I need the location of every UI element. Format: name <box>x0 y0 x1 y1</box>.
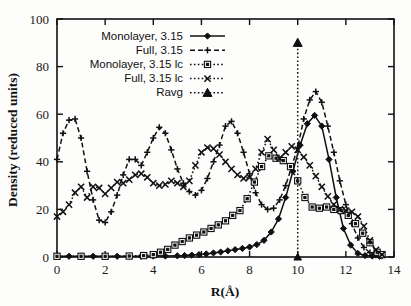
x-axis-title: R(Å) <box>211 284 240 299</box>
data-marker-core <box>56 255 58 257</box>
x-tick-label: 14 <box>388 262 402 277</box>
data-marker <box>246 244 252 250</box>
x-tick-label: 8 <box>246 262 253 277</box>
x-tick-label: 6 <box>198 262 205 277</box>
data-marker <box>232 247 238 253</box>
data-marker-core <box>203 231 205 233</box>
data-marker <box>254 242 260 248</box>
data-marker-core <box>311 206 313 208</box>
series-group <box>54 38 385 260</box>
legend-label-1: Full, 3.15 <box>136 44 183 56</box>
data-marker <box>204 33 210 39</box>
data-marker-core <box>159 251 161 253</box>
data-marker-core <box>333 208 335 210</box>
x-tick-label: 0 <box>54 262 61 277</box>
data-marker-core <box>206 63 208 65</box>
legend-label-2: Monolayer, 3.15 lc <box>90 58 184 70</box>
x-tick-label: 4 <box>150 262 157 277</box>
y-tick-label: 80 <box>36 59 49 74</box>
data-marker-core <box>80 255 82 257</box>
data-marker-core <box>224 220 226 222</box>
data-marker <box>218 249 224 255</box>
data-marker-core <box>354 223 356 225</box>
data-marker-core <box>275 157 277 159</box>
data-marker-core <box>152 254 154 256</box>
data-marker <box>340 225 346 231</box>
data-marker-core <box>210 227 212 229</box>
y-tick-label: 100 <box>30 12 50 27</box>
data-marker-core <box>239 209 241 211</box>
legend-label-0: Monolayer, 3.15 <box>101 30 183 42</box>
data-marker-core <box>196 234 198 236</box>
x-tick-label: 2 <box>102 262 109 277</box>
chart-canvas: 02468101214020406080100 Monolayer, 3.15F… <box>0 0 411 306</box>
series-1 <box>54 88 385 259</box>
legend: Monolayer, 3.15Full, 3.15Monolayer, 3.15… <box>90 30 225 99</box>
density-vs-r-chart: 02468101214020406080100 Monolayer, 3.15F… <box>0 0 411 306</box>
legend-label-4: Ravg <box>156 86 183 98</box>
data-marker <box>114 253 120 259</box>
data-marker-core <box>188 237 190 239</box>
y-tick-label: 60 <box>36 107 49 122</box>
data-marker <box>293 38 302 46</box>
data-marker-core <box>128 255 130 257</box>
series-line <box>57 92 382 256</box>
legend-label-3: Full, 3.15 lc <box>124 72 183 84</box>
series-0 <box>54 112 383 259</box>
x-tick-label: 10 <box>291 262 304 277</box>
data-marker-core <box>289 165 291 167</box>
data-marker-core <box>304 196 306 198</box>
data-marker-core <box>232 214 234 216</box>
data-marker-core <box>362 232 364 234</box>
y-tick-label: 40 <box>36 154 49 169</box>
data-marker-core <box>181 240 183 242</box>
data-marker-core <box>217 224 219 226</box>
data-marker <box>239 245 245 251</box>
y-axis-title: Density (reduced units) <box>5 73 20 207</box>
data-marker-core <box>143 254 145 256</box>
y-tick-label: 0 <box>43 250 50 265</box>
data-marker-core <box>167 248 169 250</box>
data-marker <box>326 156 332 162</box>
data-marker <box>333 194 339 200</box>
data-marker <box>174 253 180 259</box>
data-marker <box>283 194 289 200</box>
series-line <box>57 115 380 256</box>
x-tick-label: 12 <box>339 262 352 277</box>
data-marker-core <box>104 255 106 257</box>
data-marker-core <box>261 165 263 167</box>
data-marker-core <box>246 198 248 200</box>
data-marker-core <box>318 207 320 209</box>
data-marker-core <box>326 206 328 208</box>
data-marker-core <box>253 181 255 183</box>
data-marker <box>275 216 281 222</box>
tick-label-group: 02468101214020406080100 <box>30 12 402 278</box>
data-marker-core <box>174 244 176 246</box>
data-marker <box>203 251 209 257</box>
data-marker <box>210 250 216 256</box>
data-marker-core <box>268 155 270 157</box>
y-tick-label: 20 <box>36 202 49 217</box>
data-marker <box>225 248 231 254</box>
